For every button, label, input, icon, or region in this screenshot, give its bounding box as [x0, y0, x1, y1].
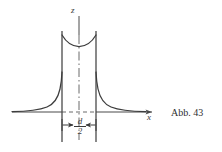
dimension-denominator: 2	[74, 127, 86, 136]
right-outer-surface-curve	[96, 72, 146, 112]
left-outer-surface-curve	[12, 72, 62, 112]
z-axis-label: z	[71, 6, 75, 15]
figure-abb-43: z x d 2 Abb. 43	[0, 0, 222, 152]
figure-caption: Abb. 43	[171, 107, 203, 118]
x-axis-label: x	[147, 113, 151, 122]
dimension-label-d-over-2: d 2	[74, 117, 86, 137]
figure-drawing	[0, 0, 222, 152]
